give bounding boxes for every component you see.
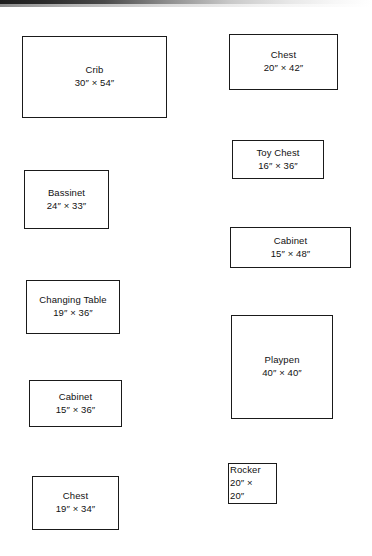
furniture-box-chest-bottom[interactable]: Chest 19″ × 34″ [32,476,119,530]
furniture-dimensions: 24″ × 33″ [47,200,87,213]
furniture-dimensions: 19″ × 36″ [53,307,93,320]
furniture-label: Bassinet [48,187,85,200]
furniture-label: Changing Table [39,294,106,307]
furniture-dimensions: 16″ × 36″ [258,160,298,173]
furniture-label: Crib [86,64,104,77]
furniture-label: Toy Chest [256,147,299,160]
furniture-box-crib[interactable]: Crib 30″ × 54″ [22,36,167,118]
furniture-box-bassinet[interactable]: Bassinet 24″ × 33″ [24,170,109,229]
furniture-box-chest-top[interactable]: Chest 20″ × 42″ [229,34,338,90]
furniture-dimensions-line1: 20″ × [229,477,253,490]
furniture-box-playpen[interactable]: Playpen 40″ × 40″ [231,315,333,419]
scan-edge-artifact-fade [0,4,372,7]
furniture-label: Cabinet [274,235,307,248]
furniture-dimensions: 20″ × 42″ [264,62,304,75]
furniture-label: Rocker [229,464,261,477]
furniture-box-toy-chest[interactable]: Toy Chest 16″ × 36″ [232,140,324,179]
furniture-dimensions: 30″ × 54″ [75,77,115,90]
furniture-box-changing-table[interactable]: Changing Table 19″ × 36″ [26,280,120,334]
furniture-dimensions: 15″ × 48″ [271,248,311,261]
scan-edge-artifact [0,0,372,4]
furniture-box-rocker[interactable]: Rocker 20″ × 20″ [228,463,277,504]
furniture-dimensions: 15″ × 36″ [56,404,96,417]
furniture-box-cabinet-right[interactable]: Cabinet 15″ × 48″ [230,227,351,268]
furniture-label: Chest [63,490,88,503]
furniture-dimensions: 19″ × 34″ [56,503,96,516]
furniture-dimensions-line2: 20″ [229,490,244,503]
furniture-box-cabinet-left[interactable]: Cabinet 15″ × 36″ [29,380,122,427]
furniture-label: Cabinet [59,391,92,404]
furniture-label: Playpen [264,354,299,367]
furniture-template-sheet: Crib 30″ × 54″ Chest 20″ × 42″ Toy Chest… [0,0,372,556]
furniture-label: Chest [271,49,296,62]
furniture-dimensions: 40″ × 40″ [262,367,302,380]
